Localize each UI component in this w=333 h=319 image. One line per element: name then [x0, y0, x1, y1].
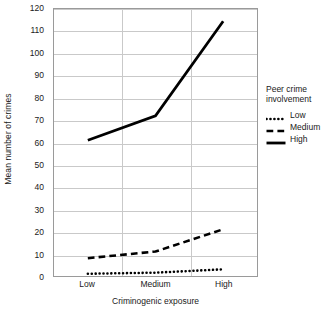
series-lines [54, 9, 257, 276]
legend-title: Peer crime involvement [266, 84, 333, 104]
y-axis-label-text: Mean number of crimes [3, 93, 13, 184]
y-axis-tick-10: 10 [35, 250, 44, 259]
legend-item-medium[interactable]: Medium [266, 121, 333, 133]
y-axis-tick-labels: 0102030405060708090100110120 [17, 8, 47, 277]
y-axis-tick-70: 70 [35, 116, 44, 125]
legend-swatch-high-icon [266, 134, 286, 144]
legend-label-low: Low [290, 110, 306, 120]
series-line-low [88, 269, 223, 273]
legend-label-high: High [290, 134, 307, 144]
y-axis-tick-80: 80 [35, 93, 44, 102]
x-axis-label: Criminogenic exposure [53, 296, 258, 306]
y-axis-tick-100: 100 [30, 49, 44, 58]
legend-swatch-medium-icon [266, 122, 286, 132]
series-line-high [88, 21, 223, 140]
legend-items: LowMediumHigh [266, 109, 333, 145]
y-axis-tick-110: 110 [30, 26, 44, 35]
y-axis-tick-40: 40 [35, 183, 44, 192]
y-axis-tick-0: 0 [39, 273, 44, 282]
y-axis-label: Mean number of crimes [0, 0, 16, 277]
legend-label-medium: Medium [290, 122, 320, 132]
y-axis-tick-50: 50 [35, 161, 44, 170]
x-axis-tick-labels: LowMediumHigh [53, 280, 258, 294]
legend-swatch-low-icon [266, 110, 286, 120]
x-axis-tick-high: High [215, 280, 232, 289]
y-axis-tick-120: 120 [30, 4, 44, 13]
y-axis-tick-60: 60 [35, 138, 44, 147]
y-axis-tick-30: 30 [35, 206, 44, 215]
chart-figure: Mean number of crimes 010203040506070809… [0, 0, 333, 319]
y-axis-tick-90: 90 [35, 71, 44, 80]
legend-item-high[interactable]: High [266, 133, 333, 145]
y-axis-tick-20: 20 [35, 228, 44, 237]
legend-item-low[interactable]: Low [266, 109, 333, 121]
plot-area [53, 8, 258, 277]
legend: Peer crime involvement LowMediumHigh [266, 84, 333, 145]
x-axis-tick-low: Low [79, 280, 95, 289]
series-line-medium [88, 229, 223, 258]
x-axis-tick-medium: Medium [140, 280, 170, 289]
